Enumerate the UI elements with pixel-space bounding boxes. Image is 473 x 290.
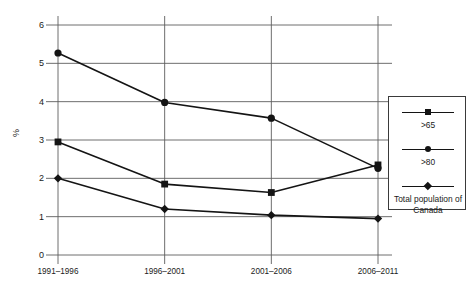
data-point-1-1 [161,99,168,106]
series-line-0 [58,142,378,193]
legend-swatch-1 [389,143,467,155]
x-tick-label-3: 2006–2011 [333,267,423,277]
legend-label-1: >80 [389,157,467,168]
legend: >65 >80 Total population of Canada [388,96,466,210]
series-line-2 [58,178,378,218]
x-tick-label-1: 1996–2001 [120,267,210,277]
y-tick-label-4: 4 [22,97,44,107]
legend-label-0: >65 [389,120,467,131]
data-point-2-0 [54,174,62,182]
y-tick-label-5: 5 [22,58,44,68]
y-axis-title: % [11,123,21,143]
y-tick-label-1: 1 [22,212,44,222]
y-tick-label-3: 3 [22,135,44,145]
data-point-2-1 [160,205,168,213]
data-point-0-0 [55,139,62,146]
legend-entry-0: >65 [389,106,467,131]
y-tick-label-0: 0 [22,250,44,260]
data-point-1-0 [54,49,61,56]
x-tick-label-0: 1991–1996 [13,267,103,277]
legend-entry-2: Total population of Canada [389,180,467,215]
data-point-1-3 [374,165,381,172]
y-tick-label-2: 2 [22,173,44,183]
line-chart: % 0123456 1991–19961996–20012001–2006200… [0,0,473,290]
diamond-marker-icon [424,182,432,190]
data-point-1-2 [268,115,275,122]
series-line-1 [58,53,378,168]
legend-swatch-2 [389,180,467,192]
legend-label-2: Total population of Canada [390,194,466,215]
data-point-0-1 [161,181,168,188]
circle-marker-icon [425,146,432,153]
legend-entry-1: >80 [389,143,467,168]
y-tick-label-6: 6 [22,20,44,30]
legend-swatch-0 [389,106,467,118]
data-point-2-3 [374,214,382,222]
data-point-0-2 [268,189,275,196]
data-point-2-2 [267,211,275,219]
square-marker-icon [425,109,432,116]
x-tick-label-2: 2001–2006 [226,267,316,277]
